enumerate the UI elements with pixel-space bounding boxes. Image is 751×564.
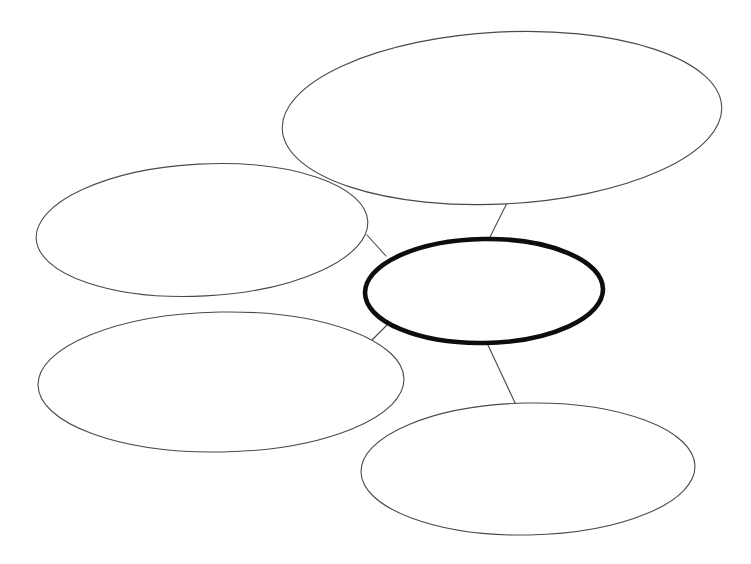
central-node-layer — [364, 237, 604, 345]
concept-map-canvas — [0, 0, 751, 564]
central-node-outline[interactable] — [364, 237, 604, 345]
concept-map-diagram — [0, 0, 751, 564]
central-node[interactable] — [364, 237, 604, 345]
